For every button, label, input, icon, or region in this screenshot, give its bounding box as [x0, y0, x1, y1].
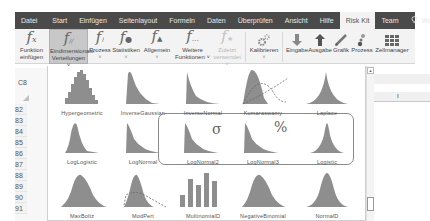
- ribbon-separator: [282, 32, 283, 62]
- arrow-down-icon: [292, 33, 302, 47]
- tab-ansicht[interactable]: Ansicht: [279, 12, 314, 29]
- laplace-chart-icon: [302, 68, 352, 106]
- grid-icon: [385, 35, 399, 47]
- row-header[interactable]: 88: [15, 170, 27, 181]
- kumaraswamy-chart-icon: [238, 68, 292, 106]
- gallery-item-normald[interactable]: NormalD: [298, 169, 356, 219]
- percent-symbol: %: [274, 119, 287, 135]
- tell-me-label: Was mö: [422, 17, 430, 24]
- gallery-item-inversenormal[interactable]: InverseNormal: [174, 66, 232, 116]
- row-header[interactable]: 86: [15, 148, 27, 159]
- more-functions-icon: f…: [186, 29, 199, 47]
- process-functions-button[interactable]: f⌇ Prozess ˅: [89, 29, 111, 64]
- output-button[interactable]: Ausgabe: [308, 29, 332, 64]
- general-function-icon: f▲: [152, 29, 163, 47]
- gallery-scrollbar[interactable]: ▲: [366, 66, 374, 221]
- select-all-corner[interactable]: [23, 95, 29, 101]
- formula-bar[interactable]: [374, 74, 430, 84]
- gallery-item-inversegaussian[interactable]: InverseGaussian: [114, 66, 172, 116]
- calibrate-gears-icon: [257, 33, 271, 47]
- input-button[interactable]: Eingabe: [286, 29, 308, 64]
- recently-used-button[interactable]: f★ Zuletzt verwendet ˅: [211, 29, 243, 64]
- normald-chart-icon: [302, 171, 352, 209]
- univariate-distributions-button[interactable]: f∕∕ Eindimensionale Verteilungen ˅: [49, 29, 88, 64]
- column-header[interactable]: I: [374, 92, 430, 102]
- gallery-item-multinomiald[interactable]: MultinomialD: [174, 169, 232, 219]
- gallery-item-kumaraswamy[interactable]: Kumaraswamy: [234, 66, 292, 116]
- distribution-gallery: Hypergeometric InverseGaussian InverseNo…: [47, 66, 366, 221]
- negativebinomial-chart-icon: [238, 171, 292, 209]
- tab-team[interactable]: Team: [375, 12, 404, 29]
- statistics-functions-button[interactable]: f● Statistiken ˅: [111, 29, 141, 64]
- function-icon: fx: [26, 30, 36, 47]
- row-header[interactable]: 89: [15, 181, 27, 192]
- gallery-item-laplace[interactable]: Laplace: [298, 66, 356, 116]
- modpert-chart-icon: [118, 171, 172, 209]
- lightbulb-icon: [411, 16, 418, 24]
- gallery-item-maxboltz[interactable]: MaxBoltz: [53, 169, 111, 219]
- gallery-item-loglogistic[interactable]: LogLogistic: [53, 115, 111, 165]
- inversegaussian-chart-icon: [118, 68, 168, 106]
- hypergeometric-chart-icon: [57, 68, 107, 106]
- gallery-item-lognormal2[interactable]: σ LogNormal2: [174, 115, 232, 165]
- process-button[interactable]: Prozess: [350, 29, 374, 64]
- process-dots-icon: [356, 33, 368, 47]
- insert-function-button[interactable]: fx Funktion einfügen: [15, 29, 48, 64]
- tab-einfuegen[interactable]: Einfügen: [73, 12, 113, 29]
- tab-daten[interactable]: Daten: [201, 12, 232, 29]
- row-header[interactable]: 84: [15, 126, 27, 137]
- ribbon-risk-kit: fx Funktion einfügen f∕∕ Eindimensionale…: [15, 29, 415, 64]
- gallery-item-hypergeometric[interactable]: Hypergeometric: [53, 66, 111, 116]
- loglogistic-chart-icon: [57, 117, 107, 155]
- tab-ueberpruefen[interactable]: Überprüfen: [232, 12, 279, 29]
- arrow-up-icon: [315, 33, 325, 47]
- general-functions-button[interactable]: f▲ Allgemein ˅: [142, 29, 172, 64]
- more-functions-button[interactable]: f… Weitere Funktionen ˅: [175, 29, 210, 64]
- calibrate-button[interactable]: Kalibrieren ˅: [248, 29, 280, 64]
- maxboltz-chart-icon: [57, 171, 111, 209]
- statistics-function-icon: f●: [120, 30, 133, 47]
- scroll-up-button[interactable]: ▲: [367, 67, 374, 74]
- row-header[interactable]: 91: [15, 203, 27, 214]
- graphic-button[interactable]: Grafik: [332, 29, 350, 64]
- row-header[interactable]: 87: [15, 159, 27, 170]
- excel-window: Datei Start Einfügen Seitenlayout Formel…: [0, 0, 430, 221]
- gallery-resize-handle[interactable]: [367, 197, 374, 211]
- row-header[interactable]: 85: [15, 137, 27, 148]
- row-headers: 82 83 84 85 86 87 88 89 90 91: [15, 104, 27, 214]
- tell-me-search[interactable]: Was mö: [405, 12, 430, 29]
- tab-formeln[interactable]: Formeln: [163, 12, 201, 29]
- tab-datei[interactable]: Datei: [15, 12, 43, 29]
- worksheet-right-area: I: [374, 68, 430, 221]
- gallery-item-negativebinomial[interactable]: NegativeBinomial: [234, 169, 292, 219]
- inversenormal-chart-icon: [178, 68, 228, 106]
- column-header-label: I: [397, 93, 399, 99]
- cell-manager-button[interactable]: Zellmanager: [374, 29, 410, 64]
- ribbon-tab-bar: Datei Start Einfügen Seitenlayout Formel…: [15, 12, 415, 29]
- row-header[interactable]: 82: [15, 104, 27, 115]
- ribbon-separator: [245, 32, 246, 62]
- logistic-chart-icon: [302, 117, 352, 155]
- distribution-function-icon: f∕∕: [64, 31, 74, 48]
- tab-risk-kit[interactable]: Risk Kit: [340, 12, 376, 29]
- tab-hilfe[interactable]: Hilfe: [314, 12, 340, 29]
- recent-function-icon: f★: [221, 29, 233, 47]
- process-function-icon: f⌇: [96, 30, 105, 47]
- pencil-icon: [334, 33, 348, 47]
- tab-start[interactable]: Start: [43, 12, 73, 29]
- gallery-item-lognormal3[interactable]: % LogNormal3: [234, 115, 292, 165]
- name-box[interactable]: C8: [15, 79, 45, 89]
- lognormal-chart-icon: [118, 117, 168, 155]
- row-header[interactable]: 90: [15, 192, 27, 203]
- gallery-item-modpert[interactable]: ModPert: [114, 169, 172, 219]
- gallery-item-lognormal[interactable]: LogNormal: [114, 115, 172, 165]
- sigma-symbol: σ: [212, 121, 222, 137]
- multinomiald-chart-icon: [178, 171, 232, 209]
- row-header[interactable]: 83: [15, 115, 27, 126]
- gallery-item-logistic[interactable]: Logistic: [298, 115, 356, 165]
